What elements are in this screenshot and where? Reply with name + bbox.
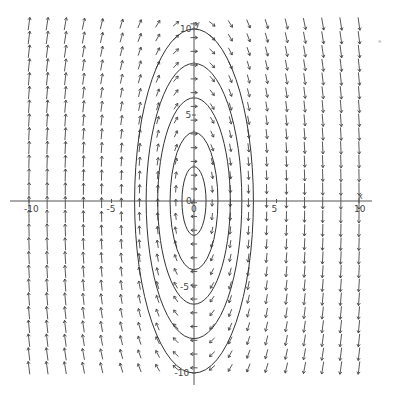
field-arrow [321,128,324,141]
field-arrow [137,336,140,344]
field-arrow [284,363,287,374]
field-arrow [265,308,268,318]
field-arrow [321,141,324,154]
field-arrow [358,127,361,140]
field-arrow [156,309,159,316]
field-arrow [303,18,306,29]
field-arrow [358,72,361,85]
field-arrow [174,255,177,262]
field-arrow [357,306,360,319]
field-arrow [174,172,177,179]
field-arrow [247,226,250,235]
field-arrow [27,348,30,361]
field-arrow [265,33,269,42]
field-arrow [100,211,103,222]
field-arrow [45,293,48,306]
field-arrow [358,31,361,44]
field-arrow [285,211,288,222]
field-arrow [303,101,306,113]
field-arrow [264,336,267,346]
field-arrow [119,308,122,318]
field-arrow [358,100,361,113]
field-arrow [229,130,232,138]
x-tick-label: 10 [354,204,366,214]
field-arrow [210,227,213,234]
field-arrow [284,294,287,305]
field-arrow [27,169,30,182]
field-arrow [321,169,324,182]
field-arrow [302,335,305,347]
field-arrow [285,129,288,140]
field-arrow [303,279,306,291]
field-arrow [210,310,214,316]
field-arrow [27,279,30,292]
field-arrow [27,306,30,319]
field-arrow [138,61,141,69]
field-arrow [303,32,306,43]
field-arrow [211,172,214,179]
field-arrow [46,17,49,30]
field-arrow [247,20,251,28]
field-arrow [358,155,361,168]
field-arrow [28,31,31,44]
field-arrow [358,59,361,72]
field-arrow [156,48,160,55]
field-arrow [321,307,324,319]
field-arrow [210,338,215,343]
field-arrow [339,210,342,223]
field-arrow [100,74,103,85]
field-arrow [119,322,122,332]
field-arrow [264,363,268,372]
field-arrow [358,141,361,154]
field-arrow [357,224,360,237]
field-arrow [120,198,123,208]
field-arrow [302,348,305,360]
field-arrow [247,33,251,41]
field-arrow [64,31,67,43]
field-arrow [339,293,342,306]
field-arrow [321,279,324,292]
field-arrow [156,323,160,330]
field-arrow [303,238,306,250]
field-arrow [247,143,250,152]
field-arrow [321,86,324,98]
field-arrow [156,351,160,358]
field-arrow [120,102,123,112]
field-arrow [120,115,123,125]
field-arrow [265,19,269,28]
field-arrow [285,184,288,195]
field-arrow [82,32,85,43]
field-arrow [156,34,160,41]
field-arrow [265,143,268,153]
field-arrow [303,169,306,181]
field-arrow [156,75,160,82]
field-arrow [229,158,232,166]
field-arrow [27,361,30,374]
field-arrow [156,130,159,138]
field-arrow [321,334,324,346]
field-arrow [210,296,214,302]
field-arrow [339,182,342,195]
field-arrow [210,117,214,123]
field-arrow [284,280,287,291]
field-arrow [82,59,85,71]
field-arrow [100,252,103,263]
field-arrow [247,61,250,69]
field-arrow [138,75,141,84]
field-arrow [46,86,49,99]
field-arrow [82,73,85,85]
field-arrow [210,62,215,67]
field-arrow [64,128,67,141]
field-arrow [303,293,306,305]
field-arrow [137,350,141,358]
x-tick-label: 5 [272,204,278,214]
field-arrow [100,239,103,250]
field-arrow [265,294,268,304]
field-arrow [265,47,268,56]
field-arrow [339,320,342,333]
field-arrow [174,117,178,123]
field-arrow [120,129,123,139]
field-arrow [285,239,288,250]
field-arrow [64,141,67,154]
field-arrow [81,307,84,319]
